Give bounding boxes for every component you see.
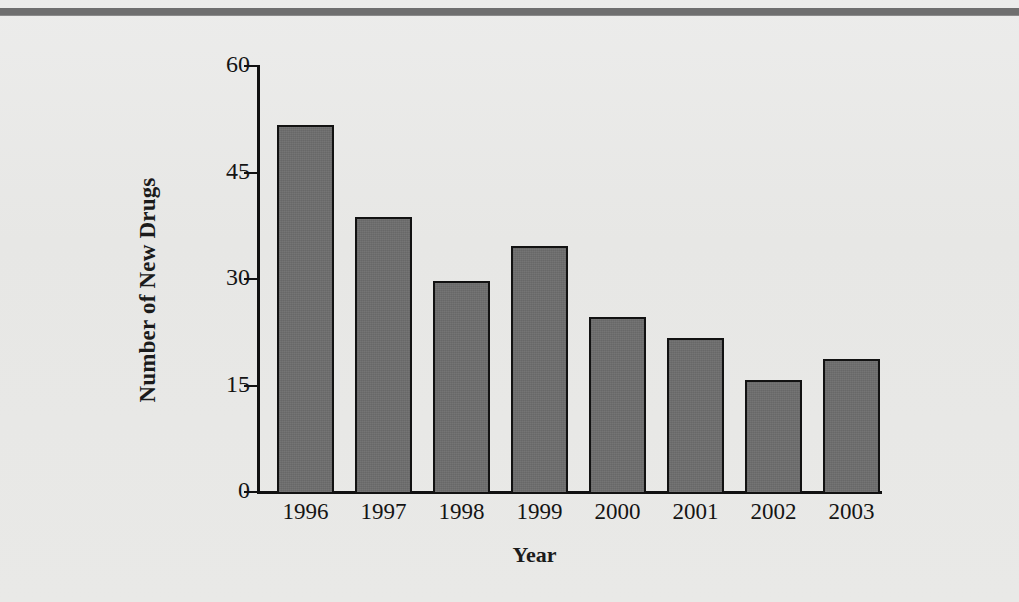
x-tick-label-2001: 2001 — [667, 499, 724, 525]
x-axis-title: Year — [0, 542, 1019, 568]
bar-2003 — [823, 359, 880, 494]
y-tick-label-0: 0 — [238, 477, 250, 504]
y-axis-line — [257, 65, 260, 492]
bar-1999 — [511, 246, 568, 495]
x-tick-label-1996: 1996 — [277, 499, 334, 525]
y-tick-label-60: 60 — [226, 51, 250, 78]
bar-2000 — [589, 317, 646, 495]
x-axis-title-text: Year — [513, 542, 557, 567]
x-tick-label-1997: 1997 — [355, 499, 412, 525]
x-tick-label-2000: 2000 — [589, 499, 646, 525]
y-axis-title: Number of New Drugs — [135, 130, 161, 450]
x-tick-label-1999: 1999 — [511, 499, 568, 525]
bar-1998 — [433, 281, 490, 494]
x-tick-label-1998: 1998 — [433, 499, 490, 525]
bar-chart: Number of New Drugs 0 15 30 45 60 199619… — [0, 15, 1019, 602]
bar-2002 — [745, 380, 802, 494]
y-tick-label-15: 15 — [226, 371, 250, 398]
bar-2001 — [667, 338, 724, 494]
bar-1997 — [355, 217, 412, 494]
y-tick-label-30: 30 — [226, 264, 250, 291]
y-tick-label-45: 45 — [226, 158, 250, 185]
plot-area: 0 15 30 45 60 19961997199819992000200120… — [257, 55, 882, 501]
x-tick-label-2003: 2003 — [823, 499, 880, 525]
x-tick-label-2002: 2002 — [745, 499, 802, 525]
bar-1996 — [277, 125, 334, 494]
